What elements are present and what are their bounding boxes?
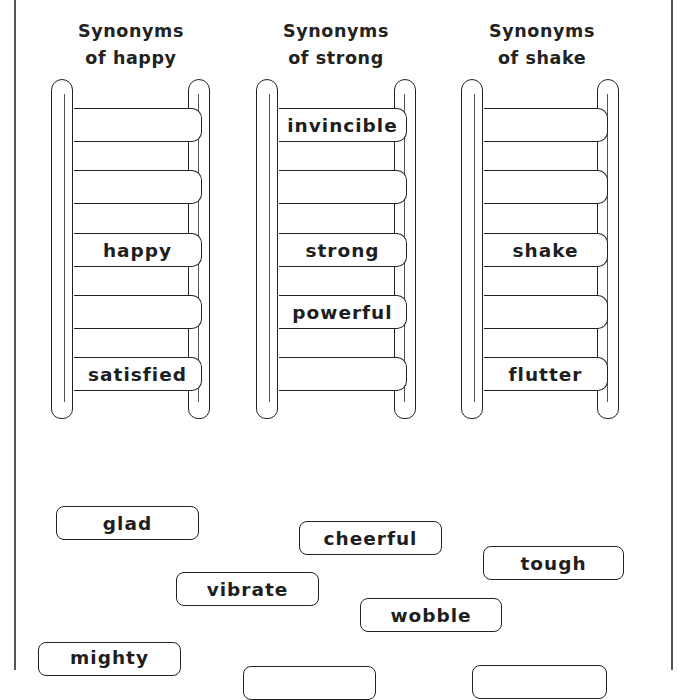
ladder-rung-3[interactable]: shake bbox=[484, 233, 608, 267]
word-card-mighty[interactable]: mighty bbox=[38, 642, 181, 676]
ladder-rung-1[interactable] bbox=[74, 108, 202, 142]
word-card-cheerful[interactable]: cheerful bbox=[299, 521, 442, 555]
ladder-rail-left bbox=[256, 79, 278, 419]
page-border-right bbox=[671, 0, 673, 670]
ladder-happy: happy satisfied bbox=[51, 79, 211, 421]
ladder-rung-2[interactable] bbox=[484, 170, 608, 204]
ladder-rung-1[interactable] bbox=[484, 108, 608, 142]
page-border-left bbox=[14, 0, 16, 670]
word-card-glad[interactable]: glad bbox=[56, 506, 199, 540]
ladder-rail-left bbox=[51, 79, 73, 419]
word-card-wobble[interactable]: wobble bbox=[360, 598, 502, 632]
word-card-vibrate[interactable]: vibrate bbox=[176, 572, 319, 606]
heading-happy: Synonyms of happy bbox=[46, 18, 216, 72]
word-card-tough[interactable]: tough bbox=[483, 546, 624, 580]
ladder-rung-1[interactable]: invincible bbox=[279, 108, 407, 142]
heading-line1: Synonyms bbox=[457, 18, 627, 45]
heading-line2: of happy bbox=[46, 45, 216, 72]
heading-line1: Synonyms bbox=[46, 18, 216, 45]
ladder-rail-left bbox=[461, 79, 483, 419]
ladder-rung-2[interactable] bbox=[279, 170, 407, 204]
word-card-partial-2[interactable] bbox=[472, 665, 607, 699]
heading-strong: Synonyms of strong bbox=[251, 18, 421, 72]
heading-line2: of strong bbox=[251, 45, 421, 72]
word-card-partial-1[interactable] bbox=[243, 666, 376, 700]
ladder-rung-5[interactable] bbox=[279, 357, 407, 391]
ladder-rung-2[interactable] bbox=[74, 170, 202, 204]
ladder-rung-3[interactable]: happy bbox=[74, 233, 202, 267]
heading-line1: Synonyms bbox=[251, 18, 421, 45]
ladder-rung-4[interactable] bbox=[484, 295, 608, 329]
ladder-rung-5[interactable]: satisfied bbox=[74, 357, 202, 391]
ladder-strong: invincible strong powerful bbox=[256, 79, 416, 421]
ladder-shake: shake flutter bbox=[461, 79, 621, 421]
ladder-rung-4[interactable] bbox=[74, 295, 202, 329]
ladder-rung-3[interactable]: strong bbox=[279, 233, 407, 267]
heading-line2: of shake bbox=[457, 45, 627, 72]
heading-shake: Synonyms of shake bbox=[457, 18, 627, 72]
ladder-rung-4[interactable]: powerful bbox=[279, 295, 407, 329]
ladder-rung-5[interactable]: flutter bbox=[484, 357, 608, 391]
